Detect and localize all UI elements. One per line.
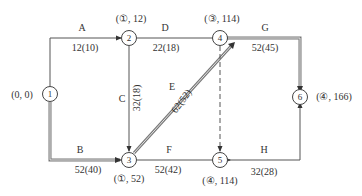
node-5-annotation: (④, 114) [202,175,237,187]
edge-b-value: 52(40) [75,164,102,176]
node-2-annotation: (①, 12) [116,13,147,25]
edge-b-name: B [77,144,84,155]
edge-c-value: 32(18) [131,85,143,112]
edge-d-value: 22(18) [153,42,180,54]
edge-g-name: G [261,22,268,33]
node-1: 1 (0, 0) [11,87,57,102]
node-6: 6 (④, 166) [293,90,352,105]
edge-h-name: H [260,144,267,155]
node-2: 2 (①, 12) [116,13,147,46]
svg-text:1: 1 [48,89,53,99]
node-4-annotation: (③, 114) [204,13,239,25]
edge-b: B 52(40) [50,102,122,176]
edge-f-name: F [166,144,172,155]
node-3: 3 (①, 52) [114,153,145,186]
node-5: 5 (④, 114) [202,153,237,188]
node-1-annotation: (0, 0) [11,89,33,101]
network-diagram: A 12(10) B 52(40) C 32(18) D 22(18) E 62… [0,0,362,196]
edge-d-name: D [161,22,168,33]
svg-text:6: 6 [298,92,303,102]
edge-a-value: 12(10) [72,42,99,54]
node-6-annotation: (④, 166) [316,91,352,103]
svg-text:5: 5 [218,155,223,165]
edge-g: G 52(45) [228,22,303,93]
edge-a-name: A [78,22,86,33]
edge-f-value: 52(42) [155,164,182,176]
edge-h: H 32(28) [228,103,300,178]
node-4: 4 (③, 114) [204,13,239,46]
edge-a: A 12(10) [50,22,121,86]
node-3-annotation: (①, 52) [114,173,145,185]
svg-text:4: 4 [218,33,223,43]
svg-text:3: 3 [127,155,132,165]
edge-c: C 32(18) [119,46,143,151]
edge-c-name: C [119,93,126,104]
edge-g-value: 52(45) [252,42,279,54]
svg-text:2: 2 [127,33,132,43]
edge-h-value: 32(28) [251,166,278,178]
edge-e-name: E [169,81,175,92]
